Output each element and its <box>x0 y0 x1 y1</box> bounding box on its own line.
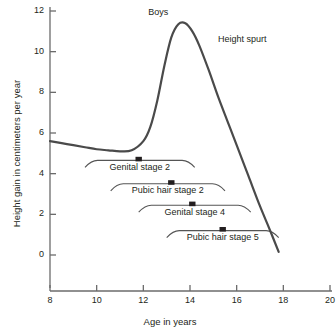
x-tick-label: 10 <box>85 295 109 305</box>
x-tick-label: 14 <box>178 295 202 305</box>
annotation-height-spurt: Height spurt <box>218 34 267 44</box>
x-tick-label: 16 <box>225 295 249 305</box>
x-axis-title: Age in years <box>130 316 210 327</box>
stage-label-1: Genital stage 2 <box>80 162 200 172</box>
y-tick-label: 4 <box>22 168 44 178</box>
y-tick-label: 0 <box>22 249 44 259</box>
y-tick-label: 6 <box>22 127 44 137</box>
y-axis-title: Height gain in centimeters per year <box>11 44 22 264</box>
stage-label-2: Pubic hair stage 2 <box>108 185 228 195</box>
y-tick-label: 8 <box>22 86 44 96</box>
x-tick-label: 8 <box>38 295 62 305</box>
y-tick-label: 2 <box>22 208 44 218</box>
y-tick-label: 12 <box>22 5 44 15</box>
stage-label-3: Genital stage 4 <box>135 207 255 217</box>
annotation-boys: Boys <box>148 7 168 17</box>
stage-label-4: Pubic hair stage 5 <box>163 232 283 242</box>
x-tick-label: 12 <box>131 295 155 305</box>
height-velocity-curve <box>50 22 279 252</box>
x-tick-label: 20 <box>318 295 336 305</box>
y-tick-label: 10 <box>22 46 44 56</box>
x-tick-label: 18 <box>271 295 295 305</box>
